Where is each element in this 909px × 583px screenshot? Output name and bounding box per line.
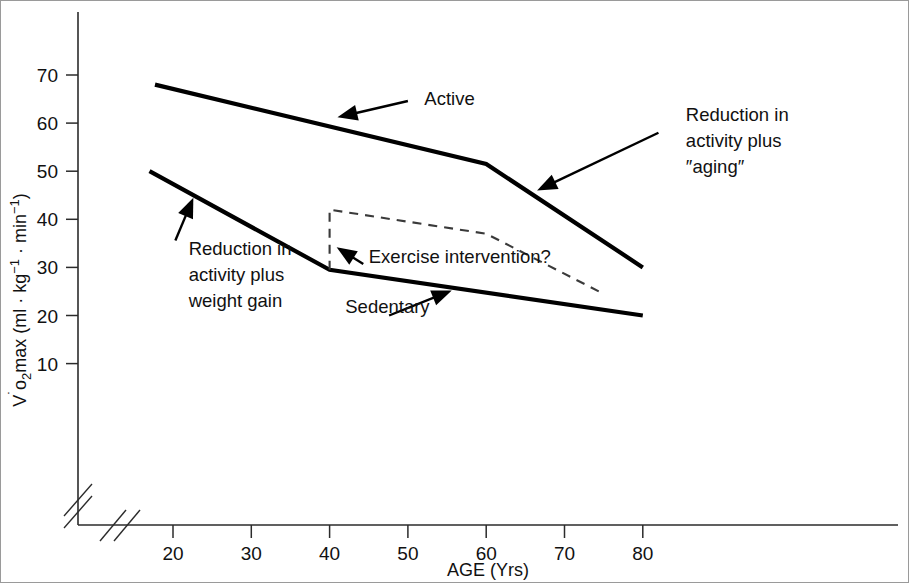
y-title-o: o [10,380,30,390]
y-tick-label: 60 [37,113,58,134]
x-axis-ticks: 20304050607080 [162,525,653,564]
annotation-line: ″aging″ [686,156,745,177]
leader-reduction-aging [537,133,658,191]
x-tick-40: 40 [319,525,340,564]
leader-active [337,101,407,121]
y-tick-label: 10 [37,354,58,375]
annotation-reduction-aging: Reduction inactivity plus″aging″ [686,104,789,177]
leader-reduction-weight-gain [175,198,193,241]
leader-arrowhead [337,105,358,121]
leader-line [552,133,659,184]
annotation-labels: ActiveReduction inactivity plus″aging″Re… [188,88,789,317]
x-tick-50: 50 [397,525,418,564]
vo2max-vs-age-line-chart: 10203040506070 20304050607080 ActiveRedu… [0,0,909,583]
y-tick-50: 50 [37,161,78,182]
y-tick-10: 10 [37,354,78,375]
annotation-line: Active [424,88,474,109]
annotation-line: Exercise intervention? [369,246,551,267]
x-tick-label: 30 [241,543,262,564]
y-tick-20: 20 [37,306,78,327]
y-title-mid: · min [10,214,30,259]
y-title-max: max (ml · kg [10,274,30,373]
annotation-line: weight gain [188,290,283,311]
y-title-sup-a: −1 [7,259,22,274]
x-tick-30: 30 [241,525,262,564]
y-tick-60: 60 [37,113,78,134]
chart-figure: 10203040506070 20304050607080 ActiveRedu… [0,0,909,583]
x-axis-title: AGE (Yrs) [447,560,529,580]
y-tick-70: 70 [37,65,78,86]
annotation-exercise-intervention: Exercise intervention? [369,246,551,267]
y-tick-label: 70 [37,65,58,86]
leader-arrowhead [537,175,558,191]
annotation-active: Active [424,88,474,109]
y-tick-label: 30 [37,257,58,278]
y-title-close: ) [10,193,30,199]
x-tick-80: 80 [632,525,653,564]
y-tick-40: 40 [37,209,78,230]
annotation-line: Reduction in [189,238,292,259]
leader-arrowhead [178,198,193,220]
annotation-line: Reduction in [686,104,789,125]
x-tick-label: 40 [319,543,340,564]
y-tick-label: 50 [37,161,58,182]
leader-exercise-intervention [337,247,364,264]
y-tick-label: 20 [37,306,58,327]
y-title-v: V [10,395,30,407]
y-tick-30: 30 [37,257,78,278]
annotation-reduction-weight-gain: Reduction inactivity plusweight gain [188,238,292,311]
leader-arrowhead [430,290,452,305]
annotation-line: Sedentary [345,296,430,317]
y-axis-ticks: 10203040506070 [37,65,78,375]
leader-line [175,212,187,240]
x-tick-label: 70 [554,543,575,564]
leader-arrowhead [337,247,358,264]
x-tick-label: 80 [632,543,653,564]
y-title-sup-b: −1 [7,199,22,214]
annotation-sedentary: Sedentary [345,296,430,317]
x-tick-60: 60 [476,525,497,564]
annotation-line: activity plus [686,130,782,151]
x-tick-70: 70 [554,525,575,564]
y-axis-title-text: V˙o2max (ml · kg−1 · min−1) [6,193,34,407]
leader-line [353,101,408,114]
x-tick-20: 20 [162,525,183,564]
x-tick-label: 20 [162,543,183,564]
annotation-line: activity plus [189,264,285,285]
y-title-sub2: 2 [19,373,34,380]
y-tick-label: 40 [37,209,58,230]
x-tick-label: 50 [397,543,418,564]
y-axis-title: V˙o2max (ml · kg−1 · min−1) [6,193,34,407]
